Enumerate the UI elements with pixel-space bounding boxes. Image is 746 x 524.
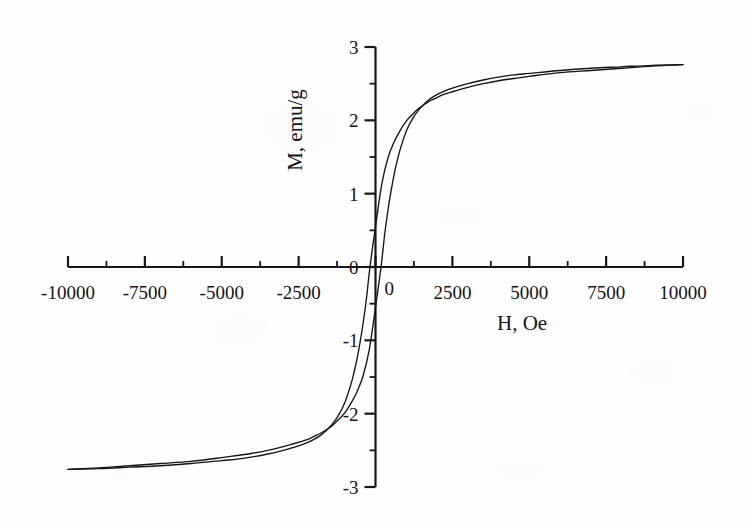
y-tick-label: 1 [349, 184, 359, 205]
x-axis-tick-labels: -10000-7500-5000-2500025005000750010000 [41, 278, 707, 303]
x-tick-label: 7500 [587, 282, 625, 303]
x-tick-label: 0 [385, 278, 395, 299]
x-tick-label: 10000 [659, 282, 707, 303]
x-tick-label: -10000 [41, 282, 95, 303]
x-axis: -10000-7500-5000-2500025005000750010000 [41, 256, 707, 303]
y-tick-label: 2 [349, 110, 359, 131]
x-tick-label: 5000 [510, 282, 548, 303]
x-tick-label: 2500 [433, 282, 471, 303]
x-tick-label: -7500 [123, 282, 167, 303]
x-axis-title: H, Oe [497, 311, 547, 335]
y-tick-label: 3 [349, 37, 359, 58]
figure-canvas: -10000-7500-5000-2500025005000750010000 … [0, 0, 746, 524]
hysteresis-loop-plot: -10000-7500-5000-2500025005000750010000 … [0, 0, 746, 524]
y-tick-label: -1 [343, 330, 359, 351]
x-tick-label: -5000 [200, 282, 244, 303]
y-tick-label: -2 [343, 404, 359, 425]
y-tick-label: -3 [343, 477, 359, 498]
x-tick-label: -2500 [276, 282, 320, 303]
y-axis-title: M, emu/g [283, 89, 307, 171]
y-tick-label: 0 [349, 257, 359, 278]
